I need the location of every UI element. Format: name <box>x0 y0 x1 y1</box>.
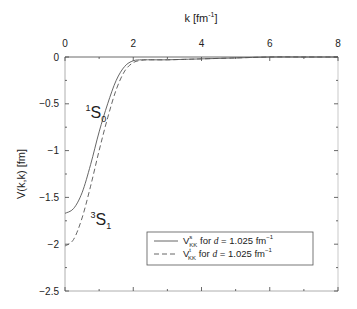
y-tick-label: −1 <box>48 145 60 156</box>
legend: VsKK for d = 1.025 fm−1VtKK for d = 1.02… <box>147 232 313 265</box>
y-tick-label: −2 <box>48 239 60 250</box>
y-tick-label: −0.5 <box>39 98 59 109</box>
curve-annotations: 1S03S1 <box>85 103 111 232</box>
legend-entry: VtKK for d = 1.025 fm−1 <box>183 247 272 261</box>
y-axis-label: V(k,k) [fm] <box>15 149 27 199</box>
x-tick-label: 2 <box>130 38 136 49</box>
y-tick-label: 0 <box>53 52 59 63</box>
x-tick-label: 8 <box>335 38 341 49</box>
legend-entry: VsKK for d = 1.025 fm−1 <box>183 234 274 248</box>
x-tick-label: 6 <box>267 38 273 49</box>
chart: 02468 0−0.5−1−1.5−2−2.5 k [fm-1] V(k,k) … <box>0 0 357 309</box>
curve-label-1S0: 1S0 <box>85 103 106 124</box>
series-1s0-solid-line <box>65 57 338 213</box>
x-axis-label: k [fm-1] <box>184 11 217 24</box>
curve-label-3S1: 3S1 <box>91 210 112 231</box>
y-tick-label: −1.5 <box>39 192 59 203</box>
x-tick-label: 0 <box>62 38 68 49</box>
y-tick-label: −2.5 <box>39 286 59 297</box>
x-tick-label: 4 <box>199 38 205 49</box>
